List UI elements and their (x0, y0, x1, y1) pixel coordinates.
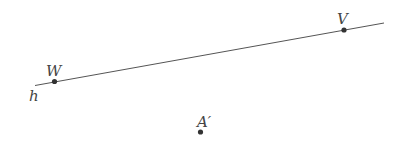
line-h-label: h (29, 87, 39, 105)
point-A-prime-label: A′ (195, 113, 212, 131)
points-group: WVA′ (46, 10, 350, 135)
point-W-label: W (46, 62, 63, 80)
point-V (341, 27, 346, 32)
geometry-diagram: h WVA′ (0, 0, 404, 147)
point-V-label: V (337, 10, 350, 28)
line-h (35, 23, 384, 86)
